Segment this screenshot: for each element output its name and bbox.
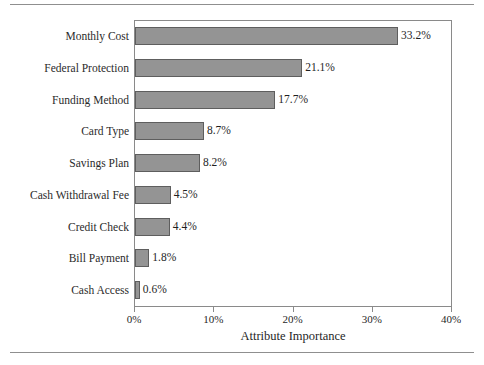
category-label: Monthly Cost <box>65 21 129 53</box>
category-label-row: Monthly Cost <box>0 21 129 53</box>
bar-value-label: 8.2% <box>203 152 227 172</box>
x-axis-title: Attribute Importance <box>134 329 452 344</box>
category-label-row: Federal Protection <box>0 53 129 85</box>
category-label-row: Savings Plan <box>0 148 129 180</box>
category-label: Bill Payment <box>69 243 129 275</box>
x-axis-ticks: 0%10%20%30%40% <box>0 307 484 331</box>
bar-value-label: 33.2% <box>401 25 431 45</box>
x-tick-mark <box>451 307 452 312</box>
category-label: Funding Method <box>52 85 129 117</box>
category-label: Cash Access <box>71 275 129 307</box>
bar-value-label: 4.5% <box>174 184 198 204</box>
bar-chart-figure: Monthly CostFederal ProtectionFunding Me… <box>0 0 484 365</box>
category-label-row: Credit Check <box>0 212 129 244</box>
category-label-row: Cash Access <box>0 275 129 307</box>
bar-row: 4.4% <box>135 212 452 244</box>
bar-value-label: 8.7% <box>207 120 231 140</box>
bar[interactable] <box>135 281 140 299</box>
category-label: Cash Withdrawal Fee <box>30 180 129 212</box>
bar[interactable] <box>135 59 302 77</box>
bar[interactable] <box>135 91 275 109</box>
category-label-row: Funding Method <box>0 85 129 117</box>
x-tick-label: 0% <box>127 313 142 325</box>
bar-row: 21.1% <box>135 53 452 85</box>
x-tick-label: 20% <box>282 313 302 325</box>
bar-row: 17.7% <box>135 85 452 117</box>
bar-row: 8.2% <box>135 148 452 180</box>
bar-value-label: 1.8% <box>152 247 176 267</box>
x-tick-mark <box>134 307 135 312</box>
category-axis-labels: Monthly CostFederal ProtectionFunding Me… <box>0 21 129 307</box>
bar[interactable] <box>135 122 204 140</box>
bar[interactable] <box>135 154 200 172</box>
bar-row: 8.7% <box>135 116 452 148</box>
x-tick-label: 40% <box>441 313 461 325</box>
x-tick-label: 30% <box>362 313 382 325</box>
bar[interactable] <box>135 218 170 236</box>
category-label: Savings Plan <box>69 148 129 180</box>
x-tick-mark <box>372 307 373 312</box>
bar-value-label: 17.7% <box>278 89 308 109</box>
bar-row: 4.5% <box>135 180 452 212</box>
x-tick-mark <box>293 307 294 312</box>
x-tick-mark <box>213 307 214 312</box>
bar-row: 1.8% <box>135 243 452 275</box>
bars-container: 33.2%21.1%17.7%8.7%8.2%4.5%4.4%1.8%0.6% <box>135 21 452 307</box>
x-tick-label: 10% <box>203 313 223 325</box>
bar[interactable] <box>135 27 398 45</box>
bar-value-label: 21.1% <box>305 57 335 77</box>
bar[interactable] <box>135 249 149 267</box>
category-label-row: Cash Withdrawal Fee <box>0 180 129 212</box>
category-label-row: Card Type <box>0 116 129 148</box>
bar-value-label: 0.6% <box>143 279 167 299</box>
bar-row: 0.6% <box>135 275 452 307</box>
bar-value-label: 4.4% <box>173 216 197 236</box>
category-label: Card Type <box>81 116 129 148</box>
category-label-row: Bill Payment <box>0 243 129 275</box>
category-label: Federal Protection <box>44 53 129 85</box>
bar-row: 33.2% <box>135 21 452 53</box>
category-label: Credit Check <box>68 212 129 244</box>
bar[interactable] <box>135 186 171 204</box>
